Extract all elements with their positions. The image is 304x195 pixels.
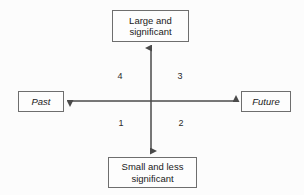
node-small-and-less-significant: Small and less significant bbox=[108, 157, 197, 188]
quadrant-label-2: 2 bbox=[174, 118, 188, 128]
node-future: Future bbox=[241, 91, 291, 112]
quadrant-label-1: 1 bbox=[114, 118, 128, 128]
quadrant-label-3: 3 bbox=[173, 71, 187, 81]
quadrant-diagram: Large and significant Small and less sig… bbox=[0, 0, 304, 195]
quadrant-label-4: 4 bbox=[113, 71, 127, 81]
node-past: Past bbox=[18, 91, 64, 112]
node-large-and-significant: Large and significant bbox=[112, 10, 189, 42]
